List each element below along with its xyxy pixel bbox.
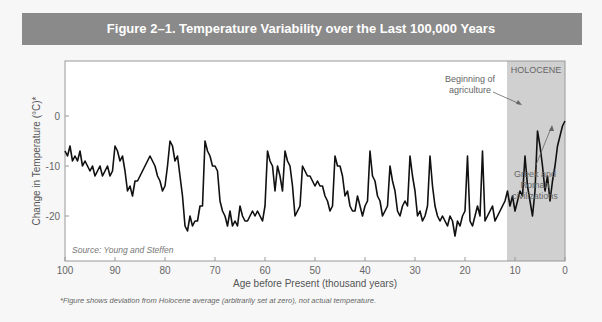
x-tick-label: 60 xyxy=(259,265,271,276)
chart: 0-10-20 1009080706050403020100 HOLOCENE … xyxy=(0,0,602,322)
agriculture-label-2: agriculture xyxy=(449,85,491,95)
agriculture-label-1: Beginning of xyxy=(445,74,496,84)
greek-label-2: Roman xyxy=(520,180,549,190)
source-label: Source: Young and Steffen xyxy=(72,245,174,255)
footnote: *Figure shows deviation from Holocene av… xyxy=(60,296,376,305)
y-tick-label: -10 xyxy=(46,161,61,172)
y-axis-label: Change in Temperature (°C)* xyxy=(31,96,42,225)
x-tick-label: 0 xyxy=(562,265,568,276)
x-tick-label: 100 xyxy=(57,265,74,276)
x-tick-label: 10 xyxy=(509,265,521,276)
x-tick-label: 90 xyxy=(109,265,121,276)
x-tick-label: 50 xyxy=(309,265,321,276)
greek-label-1: Greek and xyxy=(514,169,556,179)
x-axis-label: Age before Present (thousand years) xyxy=(233,278,397,289)
x-tick-label: 70 xyxy=(209,265,221,276)
x-tick-label: 30 xyxy=(409,265,421,276)
y-tick-label: 0 xyxy=(54,111,60,122)
holocene-label: HOLOCENE xyxy=(511,65,562,75)
x-tick-label: 20 xyxy=(459,265,471,276)
y-tick-label: -20 xyxy=(46,211,61,222)
greek-label-3: civilizations xyxy=(512,191,558,201)
x-tick-label: 80 xyxy=(159,265,171,276)
x-tick-label: 40 xyxy=(359,265,371,276)
